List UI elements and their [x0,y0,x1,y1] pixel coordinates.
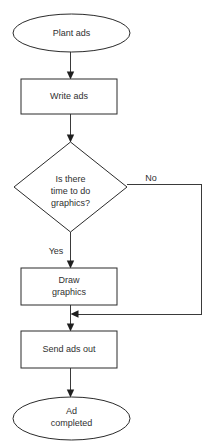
process-node-write-ads[interactable]: Write ads [21,79,117,114]
arrowhead-into-draw-graphics [67,261,74,269]
decision-node-label-line1: Is there [55,174,85,184]
edge-decision-yes-to-draw-graphics [67,232,74,269]
edge-label-no: No [145,173,157,183]
arrowhead-into-send-ads-out [67,324,74,332]
arrowhead-into-decision [67,135,74,143]
flowchart-canvas: Plant ads Write ads Is there time to do … [0,0,212,448]
start-node-plant-ads[interactable]: Plant ads [13,14,130,52]
edge-write-ads-to-decision [67,114,74,143]
arrowhead-into-merge-point [71,310,79,317]
draw-graphics-label-line1: Draw [58,275,80,285]
edge-start-to-write-ads [67,52,74,80]
start-node-label: Plant ads [53,28,91,38]
flowchart-svg: Plant ads Write ads Is there time to do … [0,0,212,448]
end-node-label-line1: Ad [66,406,77,416]
edge-draw-graphics-to-send-ads-out [67,305,74,332]
decision-node-label-line3: graphics? [51,198,90,208]
edge-label-yes: Yes [49,246,64,256]
process-node-send-ads-out[interactable]: Send ads out [21,331,117,368]
arrowhead-into-write-ads [67,72,74,80]
decision-node-time-for-graphics[interactable]: Is there time to do graphics? [14,142,127,232]
end-node-ad-completed[interactable]: Ad completed [13,397,130,440]
send-ads-out-label: Send ads out [42,344,96,354]
decision-node-label-line2: time to do [51,186,91,196]
write-ads-label: Write ads [50,91,88,101]
end-node-label-line2: completed [51,418,93,428]
arrowhead-into-end-node [67,390,74,398]
process-node-draw-graphics[interactable]: Draw graphics [21,268,117,305]
draw-graphics-label-line2: graphics [52,287,87,297]
edge-send-ads-out-to-end [67,368,74,398]
